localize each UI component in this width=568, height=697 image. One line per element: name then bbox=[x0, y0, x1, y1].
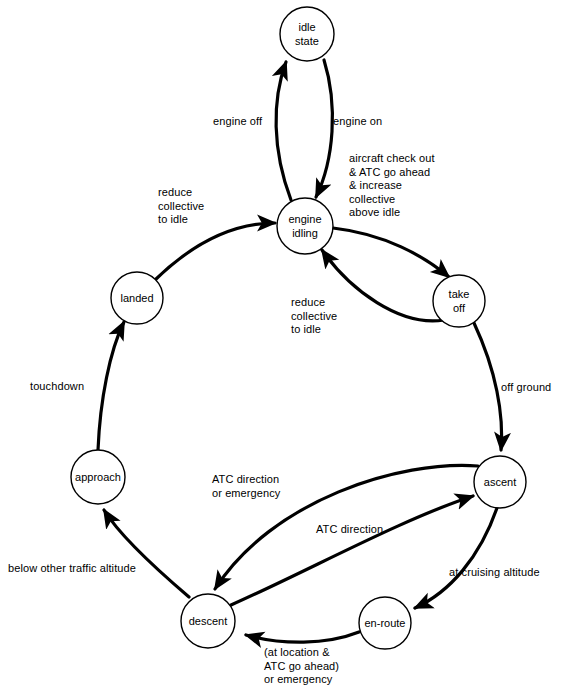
edge-engine-idling-to-take-off bbox=[333, 228, 449, 277]
edge-ascent-to-en-route bbox=[415, 508, 497, 608]
edge-idle-state-to-engine-idling bbox=[316, 60, 332, 197]
edge-label-off-ground: off ground bbox=[501, 381, 551, 395]
node-circle-engine-idling bbox=[277, 198, 333, 254]
node-circle-landed bbox=[111, 272, 163, 324]
diagram-canvas: idle state engine idling take off landed… bbox=[0, 0, 568, 697]
node-circle-ascent bbox=[474, 456, 526, 508]
node-circle-take-off bbox=[433, 275, 485, 327]
node-circle-approach bbox=[71, 450, 125, 504]
edge-descent-to-ascent bbox=[231, 496, 473, 605]
edge-label-reduce-collective-left: reduce collective to idle bbox=[158, 186, 204, 227]
edge-take-off-to-ascent bbox=[474, 323, 502, 450]
state-diagram: idle state engine idling take off landed… bbox=[0, 0, 568, 697]
edge-label-aircraft-check-out: aircraft check out & ATC go ahead & incr… bbox=[349, 152, 435, 220]
node-approach[interactable]: approach bbox=[71, 450, 125, 504]
node-en-route[interactable]: en-route bbox=[359, 597, 411, 649]
edge-label-at-cruising-altitude: at cruising altitude bbox=[449, 566, 540, 580]
node-descent[interactable]: descent bbox=[181, 594, 235, 648]
node-landed[interactable]: landed bbox=[111, 272, 163, 324]
edge-label-atc-direction-or-emergency: ATC direction or emergency bbox=[212, 473, 280, 500]
edge-engine-idling-to-idle-state bbox=[276, 62, 291, 200]
node-take-off[interactable]: take off bbox=[433, 275, 485, 327]
edge-label-atc-direction: ATC direction bbox=[316, 523, 383, 537]
node-circle-en-route bbox=[359, 597, 411, 649]
edge-label-at-location-atc: (at location & ATC go ahead) or emergenc… bbox=[264, 646, 339, 687]
edge-label-reduce-collective-right: reduce collective to idle bbox=[291, 296, 337, 337]
edge-descent-to-approach bbox=[104, 510, 189, 597]
edge-approach-to-landed bbox=[98, 322, 124, 450]
node-circle-descent bbox=[181, 594, 235, 648]
edge-label-touchdown: touchdown bbox=[30, 380, 84, 394]
node-ascent[interactable]: ascent bbox=[474, 456, 526, 508]
edge-en-route-to-descent bbox=[246, 632, 359, 642]
node-idle-state[interactable]: idle state bbox=[280, 7, 334, 61]
node-circle-idle-state bbox=[280, 7, 334, 61]
edge-label-engine-on: engine on bbox=[333, 115, 382, 129]
edge-landed-to-engine-idling bbox=[155, 223, 275, 280]
node-engine-idling[interactable]: engine idling bbox=[277, 198, 333, 254]
edge-label-engine-off: engine off bbox=[213, 115, 262, 129]
edge-label-below-other-traffic-altitude: below other traffic altitude bbox=[8, 562, 136, 576]
